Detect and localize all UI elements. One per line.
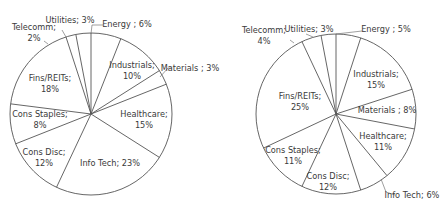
left-label-consdisc: Cons Disc;12% xyxy=(23,147,66,169)
left-label-industrials: Industrials;10% xyxy=(109,60,154,82)
right-label-consdisc: Cons Disc;12% xyxy=(307,171,350,193)
right-label-materials: Materials ; 8% xyxy=(358,105,416,116)
right-label-consstaples: Cons Staples;11% xyxy=(265,145,321,167)
left-label-fins: Fins/REITs;18% xyxy=(29,73,72,95)
left-label-utilities: Utilities; 3% xyxy=(45,15,94,26)
left-label-materials: Materials ; 3% xyxy=(161,63,219,74)
right-label-utilities: Utilities; 3% xyxy=(284,24,333,35)
leader-line xyxy=(290,40,294,43)
left-label-healthcare: Healthcare;15% xyxy=(120,109,167,131)
right-label-industrials: Industrials;15% xyxy=(353,69,398,91)
left-label-infotech: Info Tech; 23% xyxy=(80,158,140,169)
leader-line xyxy=(336,31,362,34)
right-label-energy: Energy ; 5% xyxy=(361,24,411,35)
leader-line xyxy=(62,30,66,37)
right-label-healthcare: Healthcare;11% xyxy=(359,131,406,153)
right-label-fins: Fins/REITs;25% xyxy=(279,91,322,113)
left-label-consstaples: Cons Staples;8% xyxy=(12,109,68,131)
right-label-infotech: Info Tech; 6% xyxy=(385,190,440,201)
left-label-energy: Energy ; 6% xyxy=(102,19,152,30)
right-label-telecomm: Telecomm;4% xyxy=(242,25,286,47)
